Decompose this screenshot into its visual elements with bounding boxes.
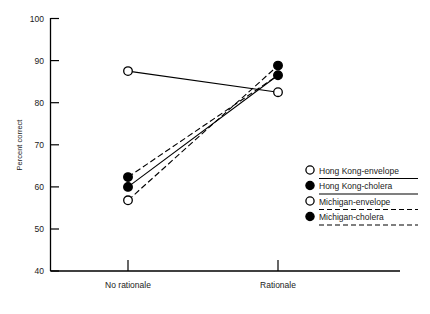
point-hong-kong-envelope-rationale [274,88,283,97]
legend-marker-open-circle-icon [306,166,314,174]
y-tick-label-50: 50 [35,224,45,234]
x-tick-label-rationale: Rationale [260,280,296,290]
legend-marker-filled-circle-icon [306,181,314,189]
legend-marker-filled-circle-icon [306,212,314,220]
y-tick-label-90: 90 [35,56,45,66]
point-michigan-envelope-rationale [274,61,283,70]
legend-item-michigan-envelope: Michigan-envelope [306,197,418,210]
line-chart: 100 90 80 70 60 50 40 Percent correct No… [0,0,430,314]
legend-item-hong-kong-cholera: Hong Kong-cholera [306,181,418,194]
point-hong-kong-cholera-no-rationale [124,183,133,192]
y-tick-label-80: 80 [35,98,45,108]
legend: Hong Kong-envelope Hong Kong-cholera Mic… [306,166,418,226]
series-line-michigan-cholera [128,75,278,177]
point-hong-kong-cholera-rationale [274,71,283,80]
legend-label-hong-kong-cholera: Hong Kong-cholera [319,181,393,191]
legend-label-hong-kong-envelope: Hong Kong-envelope [319,166,399,176]
point-michigan-cholera-no-rationale [124,173,133,182]
y-tick-label-40: 40 [35,266,45,276]
x-axis-ticks [128,260,278,271]
point-hong-kong-envelope-no-rationale [124,67,133,76]
y-axis-title: Percent correct [15,119,24,171]
legend-item-hong-kong-envelope: Hong Kong-envelope [306,166,418,179]
point-michigan-envelope-no-rationale [124,196,133,205]
y-tick-label-70: 70 [35,140,45,150]
series-line-hong-kong-cholera [128,75,278,187]
legend-label-michigan-envelope: Michigan-envelope [319,197,391,207]
series-line-michigan-envelope [128,66,278,201]
legend-item-michigan-cholera: Michigan-cholera [306,212,418,225]
y-tick-label-60: 60 [35,182,45,192]
y-axis-ticks [51,19,60,272]
legend-marker-open-circle-icon [306,197,314,205]
legend-label-michigan-cholera: Michigan-cholera [319,212,384,222]
series-line-hong-kong-envelope [128,71,278,92]
y-tick-label-100: 100 [30,14,44,24]
x-tick-label-no-rationale: No rationale [105,280,151,290]
